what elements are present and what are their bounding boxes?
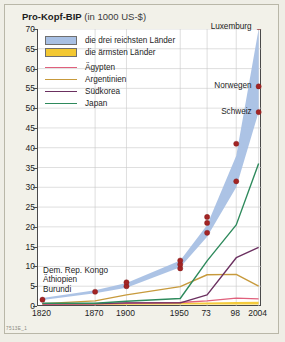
y-axis-tick-label: 35 [5,163,35,173]
y-axis-tick-label: 20 [5,222,35,232]
legend-label: Japan [85,99,107,108]
y-axis-tick-label: 0 [5,301,35,311]
x-axis-tick-label: 1900 [116,308,135,318]
y-axis-tick-label: 5 [5,281,35,291]
legend-line-swatch [45,91,77,92]
legend: die drei reichsten Länderdie ärmsten Län… [45,35,175,110]
annotation-poorest-2: Burundi [43,285,71,294]
legend-label: die ärmsten Länder [85,48,156,57]
data-point-marker [256,110,261,115]
x-axis: 182018701900195073982004 [0,0,285,24]
data-point-marker [256,84,261,89]
data-point-marker [205,214,210,219]
y-axis: 0510152025303540455055606570 [0,0,35,306]
data-point-marker [234,141,239,146]
y-axis-tick-label: 10 [5,261,35,271]
annotation-schweiz: Schweiz [221,107,252,116]
data-point-marker [256,29,261,30]
source-code: 7513E_1 [6,326,27,331]
legend-line-swatch [45,103,77,104]
y-axis-tick-label: 40 [5,143,35,153]
x-axis-tick-label: 73 [201,308,210,318]
legend-band-item[interactable]: die ärmsten Länder [45,47,175,57]
x-axis-tick-label: 1870 [85,308,104,318]
legend-label: Ägypten [85,63,115,72]
legend-swatch [45,36,77,45]
y-axis-tick-label: 65 [5,44,35,54]
data-point-marker [178,258,183,263]
legend-line-item[interactable]: Argentinien [45,74,175,85]
y-axis-tick-label: 45 [5,123,35,133]
y-axis-tick-label: 50 [5,103,35,113]
chart-page: Pro-Kopf-BIP (in 1000 US-$) 051015202530… [0,0,285,342]
y-axis-tick-label: 25 [5,202,35,212]
legend-label: Südkorea [85,87,120,96]
legend-swatch [45,48,77,57]
data-point-marker [234,179,239,184]
x-axis-tick-label: 2004 [248,308,267,318]
legend-band-item[interactable]: die drei reichsten Länder [45,35,175,45]
y-axis-tick-label: 60 [5,64,35,74]
y-axis-tick-label: 70 [5,24,35,34]
y-axis-tick-label: 55 [5,83,35,93]
y-axis-tick-label: 30 [5,182,35,192]
data-point-marker [93,289,98,294]
legend-label: Argentinien [85,75,126,84]
legend-line-item[interactable]: Ägypten [45,62,175,73]
data-point-marker [205,220,210,225]
data-point-marker [40,297,45,302]
y-axis-tick-label: 15 [5,242,35,252]
legend-line-item[interactable]: Südkorea [45,86,175,97]
annotation-norwegen: Norwegen [214,81,251,90]
annotation-luxemburg: Luxemburg [211,22,252,31]
x-axis-tick-label: 98 [231,308,240,318]
data-point-marker [205,230,210,235]
legend-line-swatch [45,79,77,80]
y-axis-tick-mark [33,306,37,307]
legend-line-item[interactable]: Japan [45,98,175,109]
legend-label: die drei reichsten Länder [85,36,175,45]
legend-line-swatch [45,67,77,68]
annotation-poorest-0: Dem. Rep. Kongo [43,266,108,275]
x-axis-tick-label: 1950 [170,308,189,318]
data-point-marker [124,280,129,285]
annotation-poorest-1: Äthiopien [43,275,77,284]
x-axis-tick-label: 1820 [32,308,51,318]
